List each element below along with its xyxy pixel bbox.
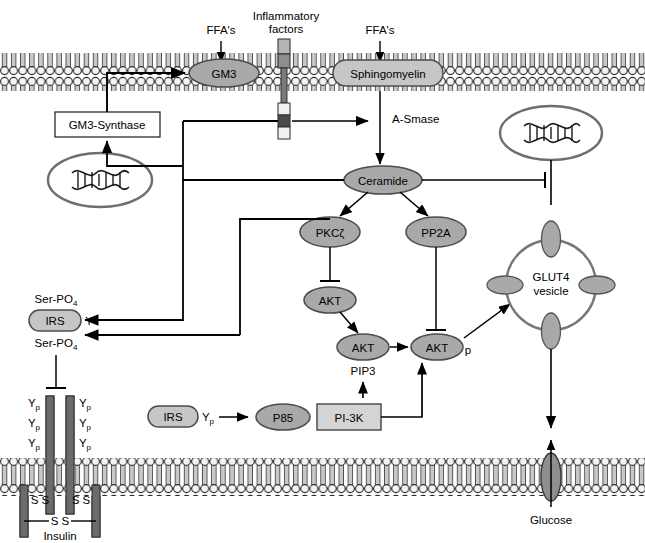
edge-pi3k-to-pip3 xyxy=(381,363,422,417)
disulfide-right-upper: S S xyxy=(72,494,91,506)
glut4-vesicle: GLUT4 vesicle xyxy=(487,221,615,349)
pathway-diagram-canvas: FFA's Inflammatory factors FFA's GM3 Sph… xyxy=(0,0,645,543)
edge-akt-p-to-glut4 xyxy=(464,304,510,338)
akt-pip3-label: AKT xyxy=(352,342,374,354)
edge-ceramide-to-pkc xyxy=(340,192,368,216)
receptor-yp-left-2: Yp xyxy=(28,417,41,432)
edge-akt-to-akt-pip3 xyxy=(340,312,358,333)
receptor-yp-right-3: Yp xyxy=(79,437,92,452)
glut4-label-line1: GLUT4 xyxy=(532,271,570,283)
edge-ceramide-to-pp2a xyxy=(400,192,428,216)
edge-ceramide-left-trunk xyxy=(85,121,344,320)
inflammatory-factors-stimulus: Inflammatory factors xyxy=(253,10,320,35)
receptor-yp-left-1: Yp xyxy=(28,397,41,412)
disulfide-lower: S S xyxy=(51,515,70,527)
gm3-node: GM3 xyxy=(189,59,259,87)
disulfide-left-upper: S S xyxy=(31,494,50,506)
irs-upper-serpo4-bottom: Ser-PO xyxy=(35,337,73,349)
svg-text:Ser-PO4: Ser-PO4 xyxy=(35,293,78,308)
edge-pp2a-inhibits-akt-p xyxy=(426,247,446,330)
pkc-zeta-label: PKCζ xyxy=(316,227,345,239)
sphingomyelin-node: Sphingomyelin xyxy=(333,60,443,86)
edge-ceramide-inhibits-glut4-trafficking xyxy=(422,172,545,188)
receptor-yp-right-2: Yp xyxy=(79,417,92,432)
gm3-label: GM3 xyxy=(212,68,237,80)
svg-text:Ser-PO4: Ser-PO4 xyxy=(35,337,78,352)
pkc-zeta-node: PKCζ xyxy=(300,217,360,247)
akt-inhibited-label: AKT xyxy=(319,295,341,307)
ceramide-label: Ceramide xyxy=(358,175,408,187)
pp2a-label: PP2A xyxy=(421,227,451,239)
irs-upper: Ser-PO4 IRS Y Ser-PO4 xyxy=(29,293,93,352)
akt-pip3-node: AKT PIP3 xyxy=(337,334,389,377)
p85-label: P85 xyxy=(273,412,293,424)
akt-phospho-node: AKT p xyxy=(411,334,471,360)
irs-upper-label: IRS xyxy=(45,315,65,327)
edge-irs-inhibits-receptor xyxy=(46,355,66,388)
receptor-yp-right-1: Yp xyxy=(79,397,92,412)
irs-upper-tyr: Y xyxy=(85,315,93,327)
ffa-right-label: FFA's xyxy=(365,24,394,36)
irs-upper-serpo4-bottom-sub: 4 xyxy=(73,343,78,352)
glut4-transporter-right xyxy=(579,276,615,294)
inflammatory-label-line1: Inflammatory xyxy=(253,10,320,22)
edge-pkc-inhibits-akt xyxy=(320,247,340,281)
irs-lower-yp: Yp xyxy=(202,411,215,426)
p85-node: P85 xyxy=(256,404,310,430)
nucleus-right xyxy=(500,106,602,205)
a-smase-label: A-Smase xyxy=(392,113,439,125)
akt-inhibited-node: AKT xyxy=(304,287,356,313)
glucose-label: Glucose xyxy=(530,514,572,526)
glut4-label-line2: vesicle xyxy=(533,285,568,297)
irs-upper-serpo4-top-sub: 4 xyxy=(73,299,78,308)
akt-phospho-label: AKT xyxy=(426,342,448,354)
edge-pkc-branch-to-irs xyxy=(85,219,330,335)
glut4-transporter-left xyxy=(487,276,523,294)
irs-upper-serpo4-top: Ser-PO xyxy=(35,293,73,305)
pi3k-node: PI-3K xyxy=(317,404,381,430)
inflammatory-label-line2: factors xyxy=(269,23,304,35)
ffa-left-label: FFA's xyxy=(206,24,235,36)
receptor-yp-left-3: Yp xyxy=(28,437,41,452)
glut4-transporter-bottom xyxy=(542,313,561,349)
a-smase-conversion: A-Smase xyxy=(380,91,439,164)
insulin-label: Insulin xyxy=(43,530,76,542)
sphingomyelin-label: Sphingomyelin xyxy=(350,68,425,80)
pp2a-node: PP2A xyxy=(406,217,466,247)
nucleus-left xyxy=(48,153,152,207)
top-plasma-membrane xyxy=(0,53,645,91)
gm3-synthase-label: GM3-Synthase xyxy=(69,119,146,131)
pip3-label: PIP3 xyxy=(351,365,376,377)
akt-phospho-p-mark: p xyxy=(465,344,471,356)
glut4-transporter-top xyxy=(542,221,561,257)
ceramide-node: Ceramide xyxy=(344,166,422,194)
irs-lower-label: IRS xyxy=(163,411,183,423)
signaling-pathway-svg: FFA's Inflammatory factors FFA's GM3 Sph… xyxy=(0,0,645,543)
gm3-synthase-box: GM3-Synthase xyxy=(55,112,160,137)
irs-lower: IRS Yp xyxy=(148,406,248,427)
pi3k-label: PI-3K xyxy=(335,412,364,424)
